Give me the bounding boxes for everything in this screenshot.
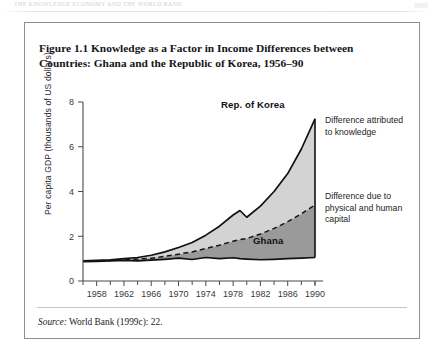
running-head: THE KNOWLEDGE ECONOMY AND THE WORLD BANK	[14, 1, 182, 7]
svg-text:1966: 1966	[141, 289, 161, 299]
figure-panel: Figure 1.1 Knowledge as a Factor in Inco…	[24, 22, 420, 339]
svg-text:2: 2	[69, 232, 74, 242]
svg-text:1990: 1990	[305, 289, 325, 299]
svg-text:1970: 1970	[169, 289, 189, 299]
svg-text:1962: 1962	[114, 289, 134, 299]
source-note: Source: World Bank (1999c): 22.	[38, 317, 162, 327]
annotation-knowledge: Difference attributed to knowledge	[325, 115, 409, 138]
series-label-ghana: Ghana	[253, 235, 283, 246]
annotation-capital: Difference due to physical and human cap…	[325, 191, 409, 226]
svg-text:1978: 1978	[223, 289, 243, 299]
svg-text:1974: 1974	[196, 289, 216, 299]
chart-svg: 0246819581962196619701974197819821986199…	[25, 23, 421, 340]
svg-text:1958: 1958	[87, 289, 107, 299]
header-rule	[0, 11, 432, 12]
source-rule	[37, 307, 407, 308]
corner-mark	[414, 3, 428, 8]
chart-area: Per capita GDP (thousands of US dollars)…	[25, 23, 421, 340]
svg-text:1986: 1986	[278, 289, 298, 299]
page-root: THE KNOWLEDGE ECONOMY AND THE WORLD BANK…	[0, 0, 432, 355]
svg-text:4: 4	[69, 187, 74, 197]
series-label-korea: Rep. of Korea	[221, 99, 285, 110]
source-text: World Bank (1999c): 22.	[67, 317, 163, 327]
source-label: Source:	[38, 317, 67, 327]
svg-text:8: 8	[69, 97, 74, 107]
svg-text:6: 6	[69, 142, 74, 152]
svg-text:1982: 1982	[250, 289, 270, 299]
svg-text:0: 0	[69, 276, 74, 286]
